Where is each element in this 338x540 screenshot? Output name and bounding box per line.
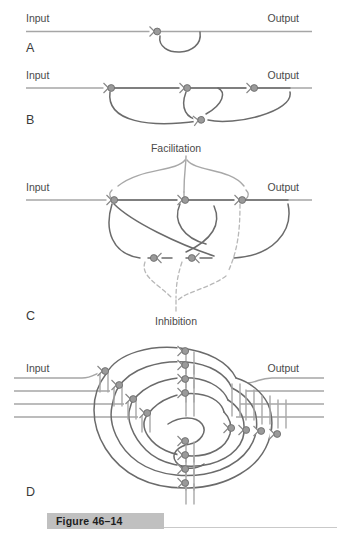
panel-c-inhibition-label: Inhibition: [155, 315, 197, 327]
panel-c-inhibition-branch-converge: [178, 276, 226, 300]
panel-d-synapse-mid-1: [178, 346, 189, 356]
panel-d-input-label: Input: [26, 362, 49, 374]
panel-d-synapse-mid-4: [178, 388, 189, 398]
panel-d-synapse-mid-3: [178, 374, 189, 384]
panel-c-facilitation-branch-right: [187, 160, 244, 186]
figure-container: Input Output A Input Output: [0, 0, 338, 540]
panel-c-letter: C: [26, 309, 35, 323]
neural-circuit-diagram: Input Output A Input Output: [0, 0, 338, 540]
panel-d: Input Output: [14, 346, 324, 504]
panel-c-facilitation-label: Facilitation: [151, 142, 201, 154]
panel-a: Input Output A: [26, 12, 312, 55]
panel-b-synapse-3: [247, 83, 258, 93]
panel-c-facilitation-terminal-right: [246, 190, 248, 199]
panel-c-collateral-mid-down: [178, 204, 206, 244]
panel-d-synapse-out-3: [254, 426, 265, 436]
panel-d-loop-2-top: [118, 362, 232, 388]
panel-b-synapse-4: [193, 114, 205, 125]
panel-b-loop-return-2: [208, 92, 290, 121]
panel-b-letter: B: [26, 113, 34, 127]
panel-d-loop-1-top: [106, 347, 236, 378]
panel-c-input-label: Input: [26, 181, 49, 193]
panel-c-inhibition-branch-mid: [176, 262, 182, 298]
figure-caption-rule: [164, 527, 337, 528]
panel-b-output-label: Output: [267, 69, 299, 81]
panel-d-synapse-out-4: [270, 429, 281, 439]
figure-caption-text: Figure 46–14: [56, 515, 123, 527]
panel-c-collateral-left-inner: [114, 204, 214, 256]
panel-c-inhibition-branch-right: [228, 204, 240, 272]
panel-b-loop-return-1: [206, 88, 222, 114]
panel-c-synapse-5: [188, 253, 199, 263]
figure-caption-band: Figure 46–14: [47, 513, 337, 529]
panel-b-synapse-1: [104, 83, 115, 93]
panel-b: Input Output B: [26, 69, 312, 127]
panel-a-collateral-loop: [160, 32, 200, 52]
panel-d-synapse-low-4: [178, 478, 189, 488]
panel-d-connector-bottom-4: [186, 484, 194, 504]
panel-c-facilitation-branch-left: [118, 160, 185, 186]
panel-c-inhibition-branch-left: [144, 262, 172, 298]
panel-d-output-fiber-1: [248, 378, 324, 383]
panel-c-output-label: Output: [267, 181, 299, 193]
panel-b-synapse-2: [180, 83, 191, 93]
panel-d-synapse-low-2: [178, 450, 189, 460]
panel-d-connector-right-4: [186, 394, 194, 416]
panel-d-output-label: Output: [267, 362, 299, 374]
panel-d-synapse-in-1: [98, 366, 109, 376]
panel-c-synapse-2: [178, 195, 189, 205]
panel-b-input-label: Input: [26, 69, 49, 81]
panel-c-collateral-mid-cross: [186, 206, 217, 252]
panel-a-input-label: Input: [26, 12, 49, 24]
panel-d-synapse-out-1: [224, 423, 235, 433]
panel-a-synapse-1: [150, 27, 161, 37]
panel-b-loop-medium: [184, 92, 200, 120]
panel-c-collateral-right: [234, 204, 289, 258]
panel-a-output-label: Output: [267, 12, 299, 24]
panel-c: Facilitation Input Output: [26, 142, 312, 327]
panel-d-connector-out-2: [246, 390, 254, 420]
panel-a-letter: A: [26, 41, 35, 55]
panel-d-letter: D: [26, 485, 35, 499]
panel-d-synapse-in-4: [140, 408, 151, 418]
panel-c-synapse-4: [150, 253, 161, 263]
